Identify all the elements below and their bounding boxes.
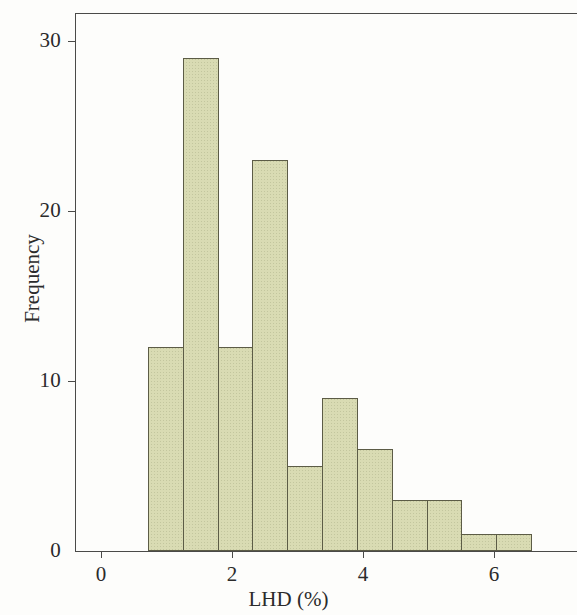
- x-axis-title: LHD (%): [0, 588, 577, 611]
- y-axis-tick: [68, 381, 76, 382]
- y-axis-tick-label: 10: [15, 370, 61, 391]
- histogram-figure: 0102030 0246 Frequency LHD (%): [0, 0, 577, 615]
- x-axis-tick-label: 6: [474, 562, 514, 586]
- x-axis-tick: [363, 551, 364, 558]
- histogram-bar: [148, 347, 184, 551]
- histogram-bar: [392, 500, 428, 551]
- histogram-bar: [287, 466, 323, 551]
- histogram-bar: [252, 160, 288, 551]
- x-axis-tick: [232, 551, 233, 558]
- histogram-bar: [183, 58, 219, 551]
- y-axis-tick-label: 0: [15, 540, 61, 561]
- y-axis-tick: [68, 211, 76, 212]
- bar-series: [0, 0, 577, 615]
- histogram-bar: [496, 534, 532, 551]
- y-axis-title: Frequency: [22, 199, 43, 359]
- y-axis-tick-label: 30: [15, 30, 61, 51]
- y-axis-tick: [68, 41, 76, 42]
- histogram-bar: [218, 347, 254, 551]
- x-axis-tick-label: 2: [212, 562, 252, 586]
- x-axis-tick: [101, 551, 102, 558]
- histogram-bar: [461, 534, 497, 551]
- x-axis-tick-label: 0: [81, 562, 121, 586]
- histogram-bar: [357, 449, 393, 551]
- x-axis-tick: [494, 551, 495, 558]
- histogram-bar: [322, 398, 358, 551]
- histogram-bar: [427, 500, 463, 551]
- x-axis-tick-label: 4: [343, 562, 383, 586]
